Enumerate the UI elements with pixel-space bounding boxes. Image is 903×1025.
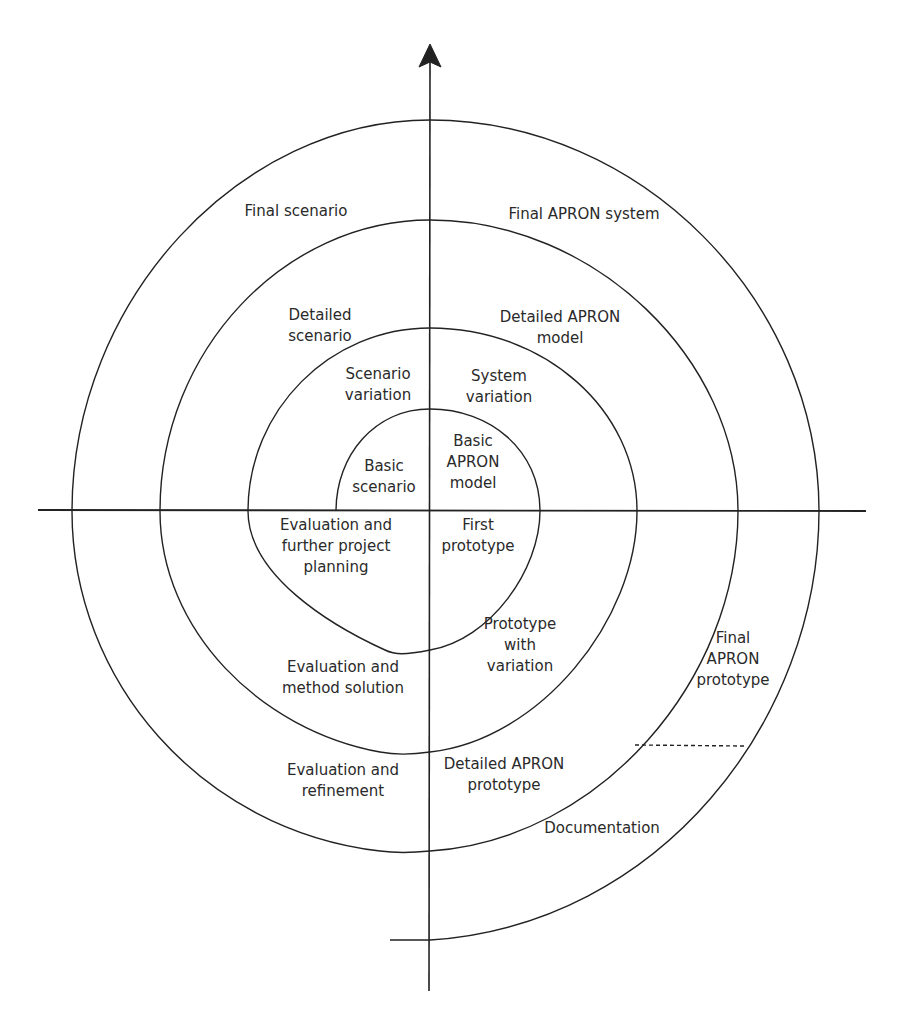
label-first-prototype: First prototype bbox=[441, 515, 514, 557]
spiral-diagram bbox=[0, 0, 903, 1025]
label-detailed-scenario: Detailed scenario bbox=[288, 305, 352, 347]
label-system-variation: System variation bbox=[466, 366, 532, 408]
label-evaluation-refinement: Evaluation and refinement bbox=[287, 760, 399, 802]
label-basic-scenario: Basic scenario bbox=[352, 456, 416, 498]
label-scenario-variation: Scenario variation bbox=[345, 364, 411, 406]
label-final-scenario: Final scenario bbox=[245, 201, 348, 222]
label-basic-apron-model: Basic APRON model bbox=[447, 431, 500, 494]
label-prototype-with-variation: Prototype with variation bbox=[484, 614, 556, 677]
spiral-arc-detailed-bottom bbox=[72, 511, 738, 853]
label-evaluation-further-planning: Evaluation and further project planning bbox=[280, 515, 392, 578]
label-detailed-apron-prototype: Detailed APRON prototype bbox=[444, 754, 564, 796]
label-documentation: Documentation bbox=[544, 818, 660, 839]
spiral-arc-final-bottom bbox=[390, 511, 819, 940]
label-final-apron-prototype: Final APRON prototype bbox=[696, 628, 769, 691]
dashed-separator bbox=[635, 745, 744, 746]
label-detailed-apron-model: Detailed APRON model bbox=[500, 307, 620, 349]
spiral-arc-variation-bottom bbox=[160, 511, 637, 754]
horizontal-axis bbox=[38, 510, 866, 511]
label-final-apron-system: Final APRON system bbox=[508, 204, 659, 225]
spiral-arc-variation-top bbox=[248, 328, 637, 511]
spiral-arc-final-top bbox=[72, 120, 819, 511]
label-evaluation-method-solution: Evaluation and method solution bbox=[282, 657, 404, 699]
